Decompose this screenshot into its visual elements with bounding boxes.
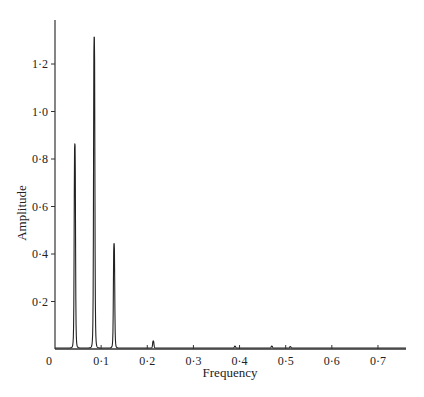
y-tick-label: 1·2: [32, 57, 48, 71]
x-tick-label: 0·2: [139, 354, 155, 368]
y-tick-label: 1·0: [32, 105, 48, 119]
y-tick-label: 0·2: [32, 295, 48, 309]
amplitude-spectrum-chart: 0·20·40·60·81·01·2 00·10·20·30·40·50·60·…: [0, 0, 424, 397]
spectrum-line: [55, 37, 406, 348]
y-tick-label: 0·6: [32, 200, 48, 214]
x-tick-label: 0: [46, 354, 52, 368]
x-axis-label: Frequency: [203, 365, 258, 380]
y-axis: 0·20·40·60·81·01·2: [32, 20, 55, 349]
x-tick-label: 0·6: [324, 354, 340, 368]
x-tick-label: 0·7: [370, 354, 386, 368]
x-tick-label: 0·3: [185, 354, 201, 368]
y-tick-label: 0·4: [32, 247, 48, 261]
y-axis-label: Amplitude: [14, 185, 29, 241]
x-tick-label: 0·5: [278, 354, 294, 368]
plot-area: [55, 37, 406, 348]
x-tick-label: 0·1: [93, 354, 109, 368]
y-tick-label: 0·8: [32, 152, 48, 166]
